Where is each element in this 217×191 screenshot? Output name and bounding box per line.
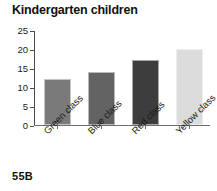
- page-number-label: 55B: [12, 170, 33, 182]
- page-title: Kindergarten children: [12, 3, 138, 17]
- y-tick-label: 20: [17, 45, 28, 55]
- y-tick-mark: [30, 69, 34, 70]
- y-tick-label: 10: [17, 83, 28, 93]
- y-tick-mark: [30, 107, 34, 108]
- y-tick-label: 25: [17, 26, 28, 36]
- y-tick-label: 5: [23, 102, 28, 112]
- y-tick-label: 0: [23, 121, 28, 131]
- y-tick-mark: [30, 88, 34, 89]
- chart-plot-area: 0510152025 Green classBlue classRed clas…: [34, 30, 210, 126]
- y-tick-mark: [30, 126, 34, 127]
- y-tick-label: 15: [17, 64, 28, 74]
- y-tick-mark: [30, 31, 34, 32]
- y-tick-mark: [30, 50, 34, 51]
- y-axis-line: [34, 31, 35, 126]
